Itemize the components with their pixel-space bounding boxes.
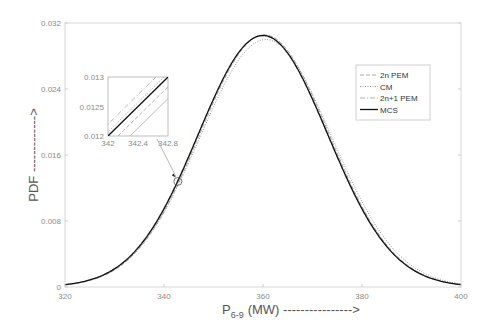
y-tick-label: 0.008 bbox=[41, 217, 62, 226]
legend-label: CM bbox=[380, 83, 393, 92]
y-tick-label: 0.032 bbox=[41, 19, 62, 28]
axes-box bbox=[65, 23, 461, 287]
legend-label: MCS bbox=[380, 106, 398, 115]
x-axis-label: P6-9(MW) ----------------> bbox=[222, 302, 360, 320]
y-tick-label: 0 bbox=[57, 283, 62, 292]
x-tick-label: 320 bbox=[58, 292, 72, 301]
plot-frame bbox=[65, 23, 461, 287]
x-tick-label: 360 bbox=[256, 292, 270, 301]
x-tick-label: 340 bbox=[157, 292, 171, 301]
inset-x-tick-label: 342.4 bbox=[128, 139, 149, 148]
inset-y-tick-label: 0.0125 bbox=[80, 103, 105, 112]
y-tick-label: 0.016 bbox=[41, 151, 62, 160]
x-tick-label: 380 bbox=[355, 292, 369, 301]
y-axis-label: PDF -------------> bbox=[26, 108, 41, 201]
inset-y-tick-label: 0.012 bbox=[84, 132, 105, 141]
legend: 2n PEMCM2n+1 PEMMCS bbox=[356, 65, 430, 120]
inset-y-tick-label: 0.013 bbox=[84, 73, 105, 82]
x-tick-label: 400 bbox=[454, 292, 468, 301]
y-tick-label: 0.024 bbox=[41, 85, 62, 94]
pdf-chart: 320340360380400 00.0080.0160.0240.032 P6… bbox=[0, 0, 485, 330]
legend-label: 2n PEM bbox=[380, 71, 409, 80]
inset-zoom: 342342.4342.80.0120.01250.013 bbox=[80, 73, 190, 148]
legend-label: 2n+1 PEM bbox=[380, 94, 418, 103]
y-axis-ticks: 00.0080.0160.0240.032 bbox=[41, 19, 461, 292]
